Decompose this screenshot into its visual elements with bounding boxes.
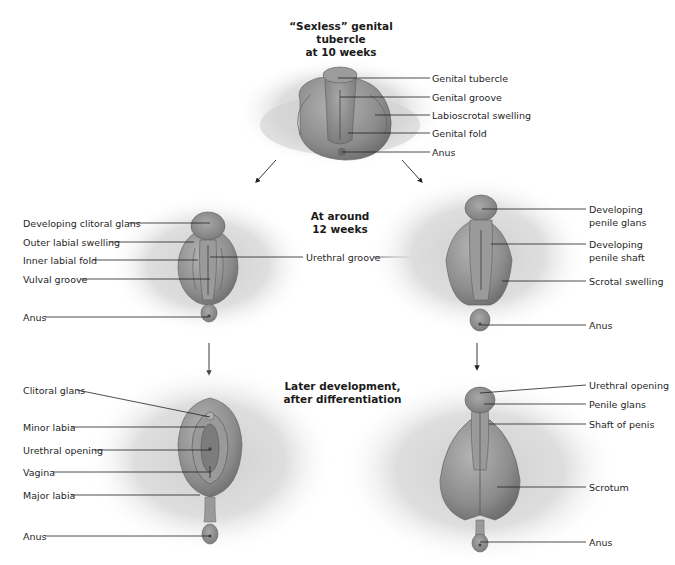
label-vulval-groove: Vulval groove: [23, 274, 87, 285]
stage1-title: “Sexless” genital tubercle at 10 weeks: [266, 20, 416, 59]
label-scrotal-swelling: Scrotal swelling: [589, 276, 664, 287]
label-minor-labia: Minor labia: [23, 422, 76, 433]
label-inner-labial-fold: Inner labial fold: [23, 255, 97, 266]
label-genital-tubercle: Genital tubercle: [432, 73, 508, 84]
label-developing-clitoral-glans: Developing clitoral glans: [23, 218, 141, 229]
label-shaft-of-penis: Shaft of penis: [589, 419, 654, 430]
label-genital-fold: Genital fold: [432, 128, 487, 139]
label-anus-stage1: Anus: [432, 147, 456, 158]
label-developing-penile-glans-line2: penile glans: [589, 216, 675, 229]
label-labioscrotal-swelling: Labioscrotal swelling: [432, 110, 531, 121]
label-developing-penile-shaft: Developing penile shaft: [589, 238, 675, 264]
label-developing-penile-glans: Developing penile glans: [589, 203, 675, 229]
label-clitoral-glans: Clitoral glans: [23, 385, 85, 396]
label-scrotum: Scrotum: [589, 482, 629, 493]
label-developing-penile-shaft-line1: Developing: [589, 238, 675, 251]
stage1-title-line2: at 10 weeks: [266, 46, 416, 59]
stage2-title-line1: At around: [300, 210, 380, 223]
illustration-layer: [0, 0, 675, 565]
stage3-title: Later development, after differentiation: [280, 380, 405, 406]
genital-development-diagram: “Sexless” genital tubercle at 10 weeks A…: [0, 0, 675, 565]
label-anus-stage2-female: Anus: [23, 312, 47, 323]
label-urethral-opening-female: Urethral opening: [23, 445, 103, 456]
stage3-title-line1: Later development,: [280, 380, 405, 393]
label-anus-stage2-male: Anus: [589, 320, 613, 331]
stage1-title-line1: “Sexless” genital tubercle: [266, 20, 416, 46]
label-urethral-groove: Urethral groove: [306, 252, 380, 263]
label-vagina: Vagina: [23, 467, 55, 478]
label-outer-labial-swelling: Outer labial swelling: [23, 237, 120, 248]
label-major-labia: Major labia: [23, 490, 75, 501]
label-penile-glans: Penile glans: [589, 399, 646, 410]
label-developing-penile-shaft-line2: penile shaft: [589, 251, 675, 264]
label-genital-groove: Genital groove: [432, 92, 502, 103]
label-developing-penile-glans-line1: Developing: [589, 203, 675, 216]
stage3-title-line2: after differentiation: [280, 393, 405, 406]
label-urethral-opening-male: Urethral opening: [589, 380, 669, 391]
stage2-male-illustration: [368, 175, 588, 335]
stage2-title-line2: 12 weeks: [300, 223, 380, 236]
stage1-illustration: [235, 57, 445, 167]
arrow-to-female-12wk: [257, 160, 276, 181]
label-anus-stage3-female: Anus: [23, 531, 47, 542]
label-anus-stage3-male: Anus: [589, 537, 613, 548]
stage2-female-illustration: [108, 195, 308, 335]
stage2-title: At around 12 weeks: [300, 210, 380, 236]
arrow-to-male-12wk: [402, 160, 421, 181]
